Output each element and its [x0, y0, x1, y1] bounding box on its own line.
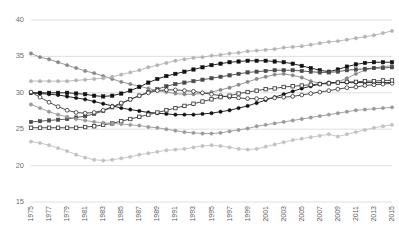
chart-container: 403530252015 197519771979198119831985198…	[0, 0, 399, 247]
x-axis-tick-label: 2011	[352, 206, 359, 221]
x-axis-tick-label: 2001	[262, 206, 269, 222]
x-axis-tick-label: 1995	[208, 206, 215, 222]
x-axis-tick-label: 2009	[334, 206, 341, 222]
x-axis-ticks: 1975197719791981198319851987198919911993…	[0, 0, 399, 247]
x-axis-tick-label: 1977	[45, 206, 52, 222]
x-axis-tick-label: 1975	[27, 206, 34, 222]
x-axis-tick-label: 1983	[99, 206, 106, 222]
x-axis-tick-label: 1979	[63, 206, 70, 222]
x-axis-tick-label: 1989	[153, 206, 160, 222]
x-axis-tick-label: 1987	[135, 206, 142, 222]
x-axis-tick-label: 2015	[388, 206, 395, 222]
x-axis-tick-label: 1997	[226, 206, 233, 222]
x-axis-tick-label: 1991	[171, 206, 178, 222]
x-axis-tick-label: 1993	[189, 206, 196, 222]
x-axis-tick-label: 2013	[370, 206, 377, 222]
x-axis-tick-label: 1981	[81, 206, 88, 222]
x-axis-tick-label: 2003	[280, 206, 287, 222]
x-axis-tick-label: 2007	[316, 206, 323, 222]
x-axis-tick-label: 1999	[244, 206, 251, 222]
x-axis-tick-label: 2005	[298, 206, 305, 222]
x-axis-tick-label: 1985	[117, 206, 124, 222]
